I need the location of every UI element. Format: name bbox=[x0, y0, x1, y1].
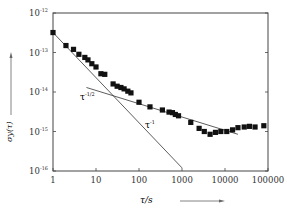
data-point bbox=[128, 90, 133, 95]
y-tick-label: 10-15 bbox=[29, 126, 48, 137]
y-tick-label: 10-14 bbox=[29, 86, 48, 97]
data-point bbox=[63, 43, 68, 48]
data-point bbox=[197, 126, 202, 131]
data-point bbox=[218, 129, 223, 134]
data-points bbox=[50, 30, 266, 137]
x-tick-label: 1000 bbox=[171, 175, 193, 185]
data-point bbox=[242, 124, 247, 129]
data-point bbox=[147, 104, 152, 109]
x-axis-label: τ/s bbox=[140, 195, 153, 205]
y-tick-label: 10-12 bbox=[29, 7, 48, 18]
data-point bbox=[252, 124, 257, 129]
x-tick-label: 10000 bbox=[211, 175, 238, 185]
x-arrow-head-icon bbox=[219, 200, 225, 203]
y-tick-label: 10-16 bbox=[29, 165, 48, 176]
data-point bbox=[102, 72, 107, 77]
annotation-tau-half: τ-1/2 bbox=[80, 91, 95, 102]
y-arrow-head-icon bbox=[10, 52, 13, 58]
data-point bbox=[71, 47, 76, 52]
data-point bbox=[76, 52, 81, 57]
data-point bbox=[160, 107, 165, 112]
data-point bbox=[176, 113, 181, 118]
svg-text:σy(τ): σy(τ) bbox=[5, 121, 14, 142]
x-tick-label: 100000 bbox=[252, 175, 284, 185]
x-tick-label: 100 bbox=[131, 175, 147, 185]
data-point bbox=[202, 129, 207, 134]
data-point bbox=[230, 127, 235, 132]
data-point bbox=[224, 129, 229, 134]
data-point bbox=[235, 125, 240, 130]
x-tick-label: 1 bbox=[50, 175, 55, 185]
data-point bbox=[188, 120, 193, 125]
data-point bbox=[136, 100, 141, 105]
annotation-tau-one: τ-1 bbox=[145, 119, 155, 130]
data-point bbox=[247, 124, 252, 129]
data-point bbox=[213, 130, 218, 135]
data-point bbox=[207, 132, 212, 137]
y-axis-label: σy(τ) bbox=[5, 121, 14, 142]
data-point bbox=[261, 123, 266, 128]
y-tick-label: 10-13 bbox=[29, 47, 48, 58]
data-point bbox=[50, 30, 55, 35]
y-axis-ticks: 10-1210-1310-1410-1510-16 bbox=[29, 7, 268, 176]
reference-line bbox=[53, 33, 182, 168]
allan-deviation-chart: 110100100010000100000 10-1210-1310-1410-… bbox=[0, 0, 287, 209]
data-point bbox=[93, 64, 98, 69]
x-tick-label: 10 bbox=[91, 175, 102, 185]
